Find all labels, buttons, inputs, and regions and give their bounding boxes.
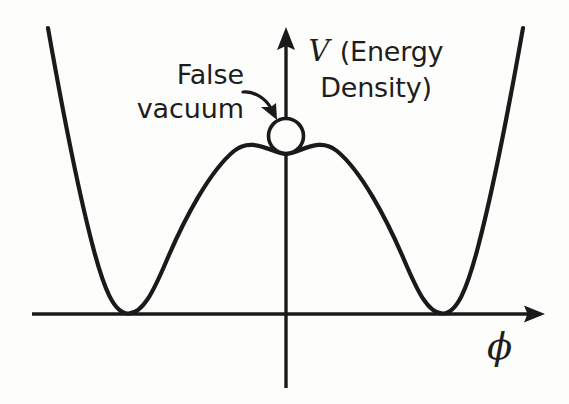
phi-axis-label: ϕ [487, 327, 512, 366]
false-vacuum-ball-icon [269, 119, 304, 154]
false-vacuum-label-line2: vacuum [96, 95, 244, 124]
diagram-canvas [0, 0, 569, 404]
v-symbol: V [309, 34, 332, 68]
v-axis-label-line2: Density) [300, 74, 452, 103]
v-axis-label-line1-rest: (Energy [331, 36, 443, 67]
pointer-arrow-icon [243, 92, 271, 108]
false-vacuum-label: False vacuum [96, 61, 244, 123]
v-axis-label-line1: V (Energy [309, 36, 444, 67]
v-axis-label: V (Energy Density) [300, 36, 452, 102]
false-vacuum-label-line1: False [177, 59, 244, 90]
potential-diagram-figure: False vacuum V (Energy Density) ϕ [0, 0, 569, 404]
